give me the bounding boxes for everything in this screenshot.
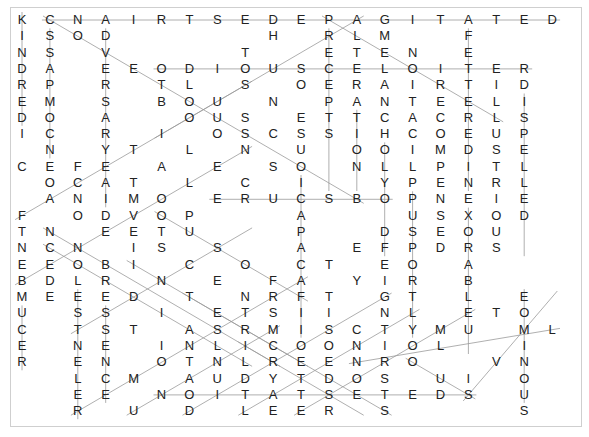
- grid-letter[interactable]: E: [458, 94, 478, 110]
- grid-letter[interactable]: O: [291, 159, 311, 175]
- grid-letter[interactable]: S: [235, 110, 255, 126]
- grid-letter[interactable]: E: [263, 403, 283, 419]
- grid-letter[interactable]: O: [40, 175, 60, 191]
- grid-letter[interactable]: E: [291, 12, 311, 28]
- grid-letter[interactable]: E: [458, 305, 478, 321]
- grid-letter[interactable]: G: [375, 12, 395, 28]
- grid-letter[interactable]: M: [431, 142, 451, 158]
- grid-letter[interactable]: C: [40, 12, 60, 28]
- grid-letter[interactable]: T: [319, 289, 339, 305]
- grid-letter[interactable]: E: [12, 338, 32, 354]
- grid-letter[interactable]: O: [486, 208, 506, 224]
- grid-letter[interactable]: N: [514, 354, 534, 370]
- grid-letter[interactable]: E: [347, 387, 367, 403]
- grid-letter[interactable]: I: [12, 126, 32, 142]
- grid-letter[interactable]: D: [542, 12, 562, 28]
- grid-letter[interactable]: T: [235, 45, 255, 61]
- grid-letter[interactable]: A: [152, 159, 172, 175]
- grid-letter[interactable]: I: [152, 338, 172, 354]
- grid-letter[interactable]: I: [207, 387, 227, 403]
- grid-letter[interactable]: L: [403, 159, 423, 175]
- grid-letter[interactable]: C: [263, 338, 283, 354]
- grid-letter[interactable]: R: [96, 273, 116, 289]
- grid-letter[interactable]: R: [12, 354, 32, 370]
- grid-letter[interactable]: Y: [263, 371, 283, 387]
- grid-letter[interactable]: O: [68, 28, 88, 44]
- grid-letter[interactable]: N: [235, 142, 255, 158]
- grid-letter[interactable]: E: [12, 94, 32, 110]
- grid-letter[interactable]: T: [291, 387, 311, 403]
- grid-letter[interactable]: E: [124, 224, 144, 240]
- grid-letter[interactable]: B: [347, 191, 367, 207]
- grid-letter[interactable]: T: [235, 387, 255, 403]
- grid-letter[interactable]: U: [263, 61, 283, 77]
- grid-letter[interactable]: U: [403, 208, 423, 224]
- grid-letter[interactable]: I: [152, 305, 172, 321]
- grid-letter[interactable]: M: [431, 322, 451, 338]
- grid-letter[interactable]: E: [514, 289, 534, 305]
- grid-letter[interactable]: L: [486, 94, 506, 110]
- grid-letter[interactable]: E: [207, 191, 227, 207]
- grid-letter[interactable]: I: [514, 338, 534, 354]
- grid-letter[interactable]: F: [12, 208, 32, 224]
- grid-letter[interactable]: Y: [403, 322, 423, 338]
- grid-letter[interactable]: C: [375, 110, 395, 126]
- grid-letter[interactable]: A: [291, 240, 311, 256]
- grid-letter[interactable]: Y: [347, 273, 367, 289]
- grid-letter[interactable]: R: [514, 61, 534, 77]
- grid-letter[interactable]: T: [458, 77, 478, 93]
- grid-letter[interactable]: S: [458, 387, 478, 403]
- grid-letter[interactable]: N: [431, 191, 451, 207]
- grid-letter[interactable]: R: [152, 12, 172, 28]
- grid-letter[interactable]: G: [375, 289, 395, 305]
- grid-letter[interactable]: T: [375, 322, 395, 338]
- grid-letter[interactable]: U: [486, 126, 506, 142]
- grid-letter[interactable]: I: [403, 77, 423, 93]
- grid-letter[interactable]: N: [40, 224, 60, 240]
- grid-letter[interactable]: O: [347, 142, 367, 158]
- grid-letter[interactable]: H: [375, 126, 395, 142]
- grid-letter[interactable]: R: [319, 403, 339, 419]
- grid-letter[interactable]: A: [291, 273, 311, 289]
- grid-letter[interactable]: D: [40, 273, 60, 289]
- grid-letter[interactable]: D: [12, 110, 32, 126]
- grid-letter[interactable]: I: [124, 12, 144, 28]
- grid-letter[interactable]: C: [12, 322, 32, 338]
- grid-letter[interactable]: A: [347, 12, 367, 28]
- grid-letter[interactable]: E: [514, 12, 534, 28]
- grid-letter[interactable]: U: [179, 224, 199, 240]
- grid-letter[interactable]: P: [319, 12, 339, 28]
- grid-letter[interactable]: D: [96, 28, 116, 44]
- grid-letter[interactable]: M: [40, 94, 60, 110]
- grid-letter[interactable]: M: [124, 191, 144, 207]
- grid-letter[interactable]: A: [458, 257, 478, 273]
- grid-letter[interactable]: O: [179, 387, 199, 403]
- grid-letter[interactable]: T: [458, 61, 478, 77]
- grid-letter[interactable]: O: [347, 371, 367, 387]
- grid-letter[interactable]: S: [403, 224, 423, 240]
- grid-letter[interactable]: S: [207, 240, 227, 256]
- grid-letter[interactable]: X: [458, 208, 478, 224]
- grid-letter[interactable]: O: [375, 142, 395, 158]
- grid-letter[interactable]: R: [235, 191, 255, 207]
- grid-letter[interactable]: S: [263, 305, 283, 321]
- grid-letter[interactable]: S: [207, 322, 227, 338]
- grid-letter[interactable]: I: [124, 257, 144, 273]
- grid-letter[interactable]: E: [207, 159, 227, 175]
- grid-letter[interactable]: L: [179, 175, 199, 191]
- grid-letter[interactable]: R: [235, 322, 255, 338]
- grid-letter[interactable]: O: [235, 257, 255, 273]
- grid-letter[interactable]: E: [291, 403, 311, 419]
- grid-letter[interactable]: E: [431, 224, 451, 240]
- grid-letter[interactable]: Y: [375, 175, 395, 191]
- grid-letter[interactable]: O: [291, 77, 311, 93]
- grid-letter[interactable]: I: [403, 12, 423, 28]
- grid-letter[interactable]: O: [235, 61, 255, 77]
- grid-letter[interactable]: A: [375, 77, 395, 93]
- grid-letter[interactable]: O: [68, 257, 88, 273]
- grid-letter[interactable]: I: [319, 305, 339, 321]
- grid-letter[interactable]: P: [40, 77, 60, 93]
- grid-letter[interactable]: S: [319, 387, 339, 403]
- grid-letter[interactable]: L: [68, 371, 88, 387]
- grid-letter[interactable]: E: [96, 387, 116, 403]
